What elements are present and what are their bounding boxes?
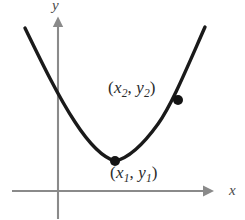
- var-y: y: [138, 163, 146, 182]
- paren-close: ): [150, 78, 156, 97]
- y-axis-label: y: [52, 0, 59, 13]
- var-y: y: [136, 78, 144, 97]
- parabola-figure: y x (x2, y2) (x1, y1): [0, 0, 245, 219]
- point-upper-marker: [173, 95, 183, 105]
- point-label-upper: (x2, y2): [108, 79, 156, 99]
- axes-group: [12, 17, 214, 220]
- var-x: x: [114, 78, 122, 97]
- paren-close: ): [152, 163, 158, 182]
- var-x: x: [116, 163, 124, 182]
- x-axis-arrowhead: [203, 186, 214, 197]
- x-axis-label: x: [229, 183, 236, 198]
- point-label-lower: (x1, y1): [110, 164, 158, 184]
- y-axis-arrowhead: [53, 17, 63, 28]
- comma: ,: [129, 163, 138, 182]
- figure-canvas: [0, 0, 245, 219]
- comma: ,: [127, 78, 136, 97]
